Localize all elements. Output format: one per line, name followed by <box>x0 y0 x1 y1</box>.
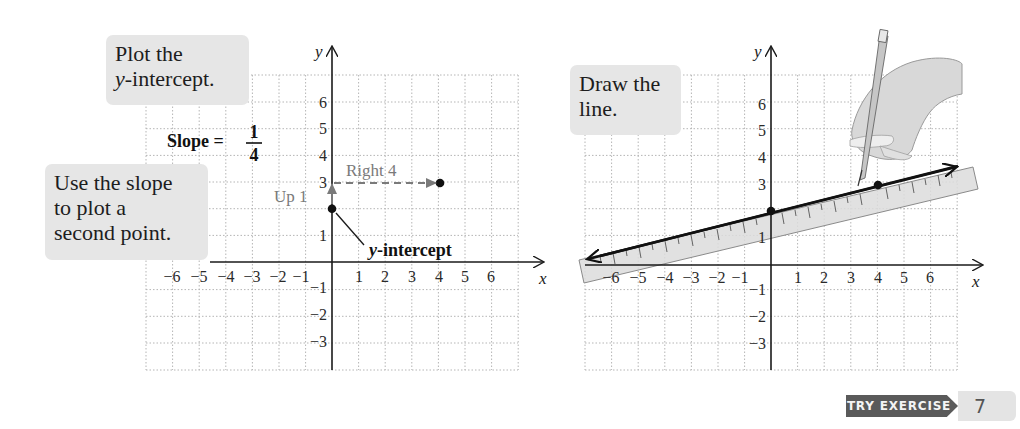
svg-text:−2: −2 <box>708 269 725 286</box>
svg-text:2: 2 <box>381 268 389 285</box>
slope-numerator: 1 <box>250 122 259 142</box>
svg-text:−2: −2 <box>310 306 327 323</box>
intercept-pointer <box>336 213 364 245</box>
right-second-point <box>874 181 883 190</box>
svg-text:−5: −5 <box>190 268 207 285</box>
callout-plot-intercept: Plot the y-intercept. <box>106 35 249 105</box>
svg-text:3: 3 <box>758 176 766 193</box>
svg-text:−1: −1 <box>310 279 327 296</box>
left-y-tick-labels: 65 43 1 −1−2 −3 <box>310 94 327 350</box>
callout-use-slope: Use the slope to plot a second point. <box>45 164 208 260</box>
try-exercise-tag[interactable]: TRY EXERCISE <box>846 395 958 417</box>
left-y-axis-label: y <box>313 42 323 61</box>
svg-text:1: 1 <box>794 269 802 286</box>
svg-text:−6: −6 <box>163 268 180 285</box>
svg-text:6: 6 <box>926 269 934 286</box>
left-x-tick-labels: −6−5 −4−3 −2−1 12 34 56 <box>163 268 495 285</box>
svg-text:1: 1 <box>758 229 766 246</box>
y-intercept-label: y-intercept <box>367 240 452 260</box>
svg-text:5: 5 <box>319 120 327 137</box>
svg-text:6: 6 <box>758 96 766 113</box>
right-x-tick-labels: −6−5 −4−3 −2−1 12 34 56 <box>602 269 934 286</box>
svg-text:5: 5 <box>461 268 469 285</box>
callout-plot-line1: Plot the <box>115 41 241 66</box>
svg-text:4: 4 <box>874 269 882 286</box>
right-4-label: Right 4 <box>346 161 397 180</box>
svg-text:3: 3 <box>319 174 327 191</box>
svg-text:−3: −3 <box>682 269 699 286</box>
svg-text:−3: −3 <box>243 268 260 285</box>
callout-plot-line2: y-intercept. <box>115 66 241 91</box>
slope-denominator: 4 <box>250 145 259 165</box>
svg-text:6: 6 <box>487 268 495 285</box>
hand-with-pencil-icon <box>850 29 962 186</box>
svg-text:4: 4 <box>319 147 327 164</box>
left-intercept-point <box>328 204 337 213</box>
callout-draw-line2: line. <box>579 96 673 121</box>
callout-draw-line: Draw the line. <box>570 65 681 135</box>
left-second-point <box>436 179 445 188</box>
slope-label: Slope = <box>167 131 224 151</box>
svg-text:−6: −6 <box>602 269 619 286</box>
svg-text:3: 3 <box>847 269 855 286</box>
svg-text:−1: −1 <box>749 281 766 298</box>
svg-text:4: 4 <box>758 149 766 166</box>
svg-text:1: 1 <box>319 227 327 244</box>
svg-text:−3: −3 <box>749 335 766 352</box>
svg-text:6: 6 <box>319 94 327 111</box>
left-x-axis-label: x <box>538 269 547 288</box>
svg-text:5: 5 <box>758 122 766 139</box>
svg-text:1: 1 <box>355 268 363 285</box>
svg-text:−1: −1 <box>292 268 309 285</box>
callout-slope-line2: to plot a <box>54 195 200 220</box>
svg-text:3: 3 <box>408 268 416 285</box>
callout-draw-line1: Draw the <box>579 71 673 96</box>
svg-text:−4: −4 <box>217 268 234 285</box>
svg-text:2: 2 <box>820 269 828 286</box>
callout-slope-line3: second point. <box>54 220 200 245</box>
callout-slope-line1: Use the slope <box>54 170 200 195</box>
svg-text:−1: −1 <box>731 269 748 286</box>
svg-text:−4: −4 <box>656 269 673 286</box>
svg-text:−2: −2 <box>269 268 286 285</box>
exercise-number[interactable]: 7 <box>958 391 1016 421</box>
up-1-label: Up 1 <box>274 187 308 206</box>
svg-text:−5: −5 <box>629 269 646 286</box>
right-y-axis-label: y <box>752 42 762 61</box>
right-x-axis-label: x <box>971 272 980 291</box>
svg-text:5: 5 <box>900 269 908 286</box>
svg-text:−3: −3 <box>310 333 327 350</box>
right-intercept-point <box>767 207 776 216</box>
svg-text:4: 4 <box>435 268 443 285</box>
svg-text:−2: −2 <box>749 308 766 325</box>
